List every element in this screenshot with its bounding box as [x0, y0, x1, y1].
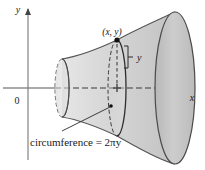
- left-end-cap: [55, 59, 69, 117]
- y-axis-label: y: [15, 4, 21, 15]
- right-cap-ellipse: [155, 12, 195, 164]
- x-axis-label: x: [189, 92, 195, 103]
- surface-of-revolution-diagram: y x 0 (x, y) y circumference = 2πy: [0, 0, 205, 170]
- marked-point-group: [114, 37, 119, 42]
- figure-container: y x 0 (x, y) y circumference = 2πy: [0, 0, 205, 170]
- point-marker-dot: [114, 37, 119, 42]
- right-end-cap: [155, 12, 195, 164]
- circumference-caption: circumference = 2πy: [30, 136, 122, 148]
- caption-leader-endpoint: [109, 104, 113, 108]
- point-coordinate-label: (x, y): [102, 27, 122, 38]
- radius-label: y: [136, 52, 142, 63]
- origin-label: 0: [15, 95, 20, 106]
